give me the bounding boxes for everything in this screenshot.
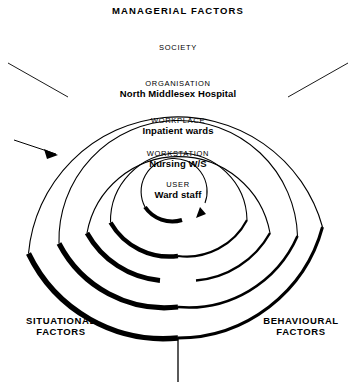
ring-label-workstation: WORKSTATION Nursing W/S <box>0 150 356 170</box>
ring-label-user: USER Ward staff <box>0 181 356 201</box>
ring-4-lower-right-arc <box>178 220 247 257</box>
ring-1-caption: SOCIETY <box>0 44 356 53</box>
ring-2-value: North Middlesex Hospital <box>0 89 356 100</box>
ring-4-value: Nursing W/S <box>0 159 356 170</box>
ring-5-thick-arc <box>145 207 182 221</box>
ring-label-organisation: ORGANISATION North Middlesex Hospital <box>0 80 356 100</box>
ring-4-thick-arc <box>111 223 179 257</box>
label-situational-factors: SITUATIONAL FACTORS <box>6 316 116 338</box>
ring-label-workplace: WORKPLACE Inpatient wards <box>0 117 356 137</box>
ring-2-thick-arc <box>59 244 178 308</box>
ring-5-value: Ward staff <box>0 190 356 201</box>
title-managerial-factors: MANAGERIAL FACTORS <box>0 6 356 17</box>
concentric-rings-diagram: MANAGERIAL FACTORS SOCIETY ORGANISATION … <box>0 0 356 387</box>
situational-factors-line-2: FACTORS <box>6 327 116 338</box>
label-behavioural-factors: BEHAVIOURAL FACTORS <box>246 316 356 338</box>
behavioural-factors-line-2: FACTORS <box>246 327 356 338</box>
ring-label-society: SOCIETY <box>0 44 356 53</box>
ring-3-lower-right-arc <box>196 233 270 281</box>
ring-3-value: Inpatient wards <box>0 126 356 137</box>
ring-5-arrowhead <box>196 207 206 218</box>
